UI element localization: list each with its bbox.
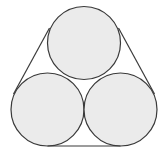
circle-bottom-left bbox=[11, 73, 84, 146]
circle-bottom-right bbox=[84, 73, 157, 146]
circles-group bbox=[11, 7, 157, 147]
three-circles-diagram bbox=[0, 0, 164, 156]
circle-top bbox=[48, 7, 121, 80]
